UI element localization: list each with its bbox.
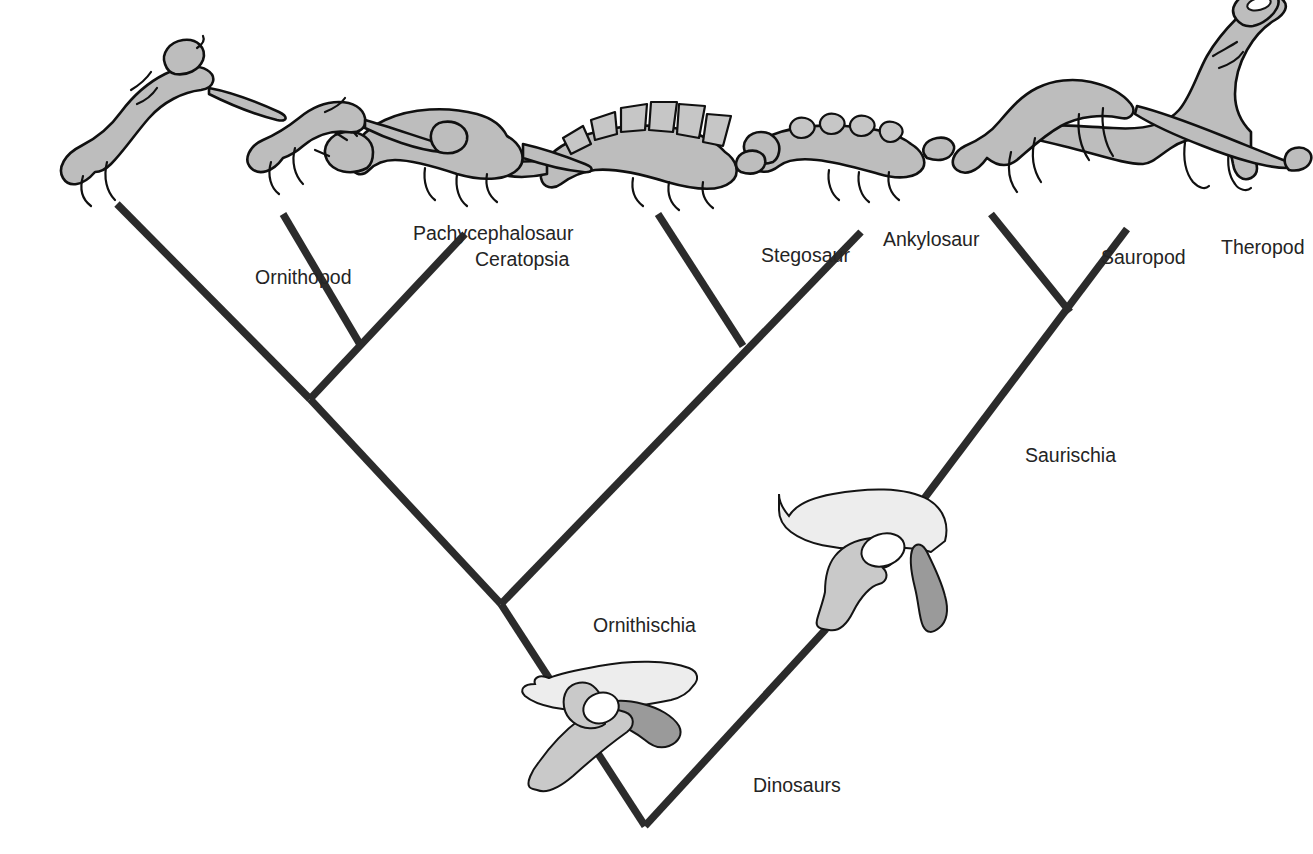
stegosaur-plate-1 [703, 114, 731, 146]
tip-label-ceratopsia: Ceratopsia [475, 248, 569, 270]
stegosaur-plate-3 [649, 102, 677, 132]
sauropod-head [1285, 148, 1312, 171]
branch-saurischia-sauropod-seg [991, 214, 1070, 312]
tip-label-theropod: Theropod [1221, 236, 1304, 258]
stegosaur-leg-3 [632, 178, 643, 206]
stegosaur-plate-4 [621, 104, 647, 132]
branch-ornithischia-ankylosaur [501, 232, 861, 604]
tip-label-sauropod: Sauropod [1101, 246, 1186, 268]
ceratopsian-frill-head [325, 132, 373, 172]
ankylosaur-armor-3 [820, 114, 845, 134]
tip-label-ornithopod: Ornithopod [255, 266, 351, 288]
ornithopod-tail [209, 88, 286, 120]
node-label-dinosaurs: Dinosaurs [753, 774, 841, 796]
tip-label-stegosaur: Stegosaur [761, 244, 850, 266]
tip-label-ankylosaur: Ankylosaur [883, 228, 980, 250]
pachycephalosaur-leg-2 [293, 148, 303, 184]
stegosaur-plate-5 [591, 112, 617, 140]
stegosaur-head [736, 151, 765, 174]
ornithopod-head [164, 40, 204, 75]
branch-split-ornithopod [117, 204, 310, 399]
ornithopod-silhouette [61, 36, 286, 206]
cladogram-svg: Dinosaurs Saurischia Ornithischia Therop… [0, 0, 1313, 854]
saurischian-hip-diagram [779, 489, 947, 631]
ornithopod-body [61, 67, 213, 185]
pachycephalosaur-dome-head [431, 122, 467, 154]
ankylosaur-leg-3 [828, 170, 839, 200]
ankylosaur-silhouette [744, 114, 954, 202]
theropod-leg-back [1184, 142, 1209, 188]
ankylosaur-armor-1 [880, 122, 903, 142]
rotated-diagram-container: Dinosaurs Saurischia Ornithischia Therop… [0, 0, 1313, 854]
tip-label-pachycephalosaur: Pachycephalosaur [413, 222, 574, 244]
ankylosaur-leg-2 [858, 172, 869, 202]
branch-ornithischia-split [310, 399, 501, 604]
ischium-bone [911, 545, 947, 632]
figure-page: Dinosaurs Saurischia Ornithischia Therop… [0, 0, 1313, 854]
ornithopod-leg-2 [105, 162, 115, 200]
stegosaur-leg-2 [668, 182, 679, 210]
ankylosaur-tail-club [923, 138, 954, 160]
stegosaur-plate-2 [677, 104, 705, 138]
ankylosaur-armor-2 [850, 116, 875, 136]
node-label-saurischia: Saurischia [1025, 444, 1116, 466]
node-label-ornithischia: Ornithischia [593, 614, 696, 636]
branch-split-ceratopsia [310, 234, 465, 399]
ankylosaur-armor-4 [790, 118, 815, 138]
branch-ornithischia-stegosaur [658, 214, 743, 346]
ceratopsian-leg-3 [424, 168, 435, 200]
ceratopsian-leg-2 [456, 174, 467, 206]
